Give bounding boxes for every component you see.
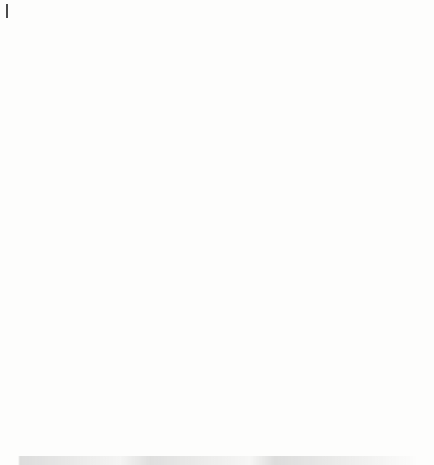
prediction-interval-chart: [0, 232, 434, 465]
chart-panel-observed: [0, 0, 434, 232]
observed-claims-chart: [0, 0, 434, 232]
figure-page: [0, 0, 434, 465]
chart-panel-intervals: [0, 232, 434, 465]
